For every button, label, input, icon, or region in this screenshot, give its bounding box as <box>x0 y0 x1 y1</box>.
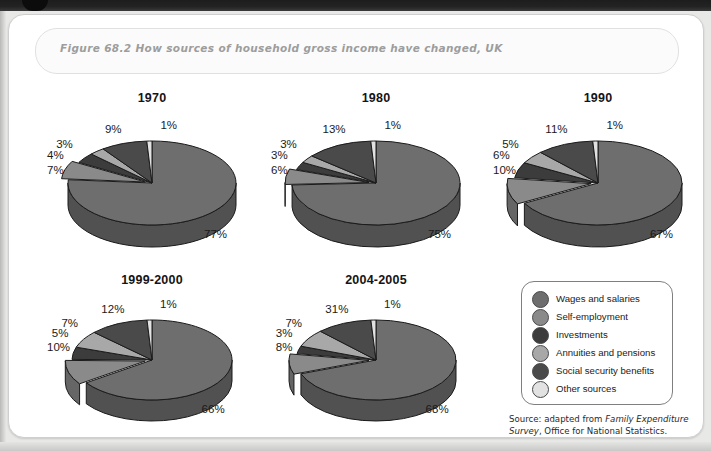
legend-item-label: Social security benefits <box>556 363 654 378</box>
scan-page-left-edge <box>0 11 7 451</box>
legend-swatch-icon <box>532 309 549 326</box>
pie-slice-label: 3% <box>47 138 73 150</box>
legend-item[interactable]: Wages and salaries <box>532 290 668 307</box>
pie-chart: 199067%10%6%5%11%1% <box>493 91 703 271</box>
legend-swatch-icon <box>532 363 549 380</box>
pie-slice-label: 1% <box>160 298 177 310</box>
figure-caption: Figure 68.2 How sources of household gro… <box>60 42 503 54</box>
pie-slice-label: 31% <box>271 303 348 315</box>
pie-slice-label: 3% <box>271 149 287 161</box>
pie-slice-label: 10% <box>493 164 509 176</box>
pie-slice-label: 13% <box>271 123 346 135</box>
pie-chart-title: 1980 <box>271 91 481 105</box>
source-note: Source: adapted from Family Expenditure … <box>509 413 704 437</box>
pie-slice-label: 77% <box>204 228 227 240</box>
chart-legend: Wages and salariesSelf-employmentInvestm… <box>521 281 673 405</box>
pie-slice-label: 5% <box>493 138 519 150</box>
pie-chart: 1999-200066%10%5%7%12%1% <box>47 273 257 438</box>
pie-slice-label: 12% <box>47 303 124 315</box>
pie-slice-label: 11% <box>493 123 568 135</box>
legend-item-label: Wages and salaries <box>556 291 640 306</box>
legend-item-label: Annuities and pensions <box>556 345 655 360</box>
legend-swatch-icon <box>532 381 549 398</box>
pie-slice-label: 1% <box>384 298 401 310</box>
pie-slice-label: 1% <box>384 119 401 131</box>
pie-chart-title: 1970 <box>47 91 257 105</box>
pie-slice-label: 7% <box>47 164 63 176</box>
legend-swatch-icon <box>532 291 549 308</box>
pie-slice-label: 8% <box>271 341 292 353</box>
legend-item-label: Investments <box>556 327 608 342</box>
figure-panel: Figure 68.2 How sources of household gro… <box>8 14 704 438</box>
pie-slice-label: 68% <box>426 403 449 415</box>
pie-slice-label: 66% <box>202 403 225 415</box>
pie-chart: 197077%7%4%3%9%1% <box>47 91 257 271</box>
legend-item[interactable]: Annuities and pensions <box>532 344 668 361</box>
pie-slice-label: 75% <box>428 228 451 240</box>
pie-chart-title: 2004-2005 <box>271 273 481 287</box>
pie-slice-label: 3% <box>271 138 297 150</box>
figure-caption-pill: Figure 68.2 How sources of household gro… <box>35 28 679 74</box>
pie-chart-title: 1990 <box>493 91 703 105</box>
scan-top-band <box>0 0 711 11</box>
legend-item[interactable]: Other sources <box>532 380 668 397</box>
legend-item[interactable]: Investments <box>532 326 668 343</box>
legend-item[interactable]: Social security benefits <box>532 362 668 379</box>
pie-slice-label: 6% <box>493 149 509 161</box>
pie-slice-label: 1% <box>160 119 177 131</box>
pie-slice-label: 7% <box>271 317 302 329</box>
scan-page-bottom-edge <box>0 442 711 451</box>
pie-slice-label: 6% <box>271 164 287 176</box>
pie-chart-title: 1999-2000 <box>47 273 257 287</box>
source-prefix: Source: adapted from <box>509 414 605 424</box>
pie-chart: 198075%6%3%3%13%1% <box>271 91 481 271</box>
legend-swatch-icon <box>532 345 549 362</box>
legend-item-label: Other sources <box>556 381 616 396</box>
pie-slice-label: 67% <box>650 228 673 240</box>
legend-swatch-icon <box>532 327 549 344</box>
legend-item[interactable]: Self-employment <box>532 308 668 325</box>
pie-slice-label: 10% <box>47 341 68 353</box>
pie-slice-label: 1% <box>606 119 623 131</box>
pie-slice-label: 7% <box>47 317 78 329</box>
legend-item-label: Self-employment <box>556 309 628 324</box>
pie-chart: 2004-200568%8%3%7%31%1% <box>271 273 481 438</box>
pie-slice-label: 4% <box>47 149 63 161</box>
pie-slice-label: 9% <box>47 123 122 135</box>
source-suffix: , Office for National Statistics. <box>539 426 667 436</box>
